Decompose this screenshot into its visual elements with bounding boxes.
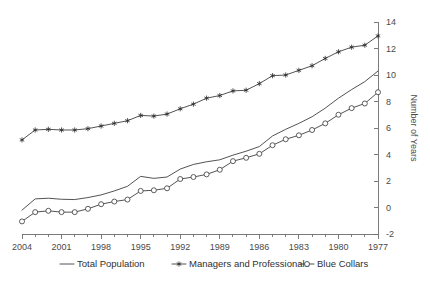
open-circle-marker <box>151 188 156 193</box>
x-tick-label: 2004 <box>12 242 32 252</box>
legend-label: Blue Collars <box>317 258 368 269</box>
open-circle-marker <box>46 208 51 213</box>
y-tick-label: 14 <box>386 17 396 27</box>
y-tick-label: 4 <box>386 150 391 160</box>
open-circle-marker <box>283 137 288 142</box>
star-marker <box>20 137 25 142</box>
x-tick-label: 1995 <box>131 242 151 252</box>
open-circle-marker <box>349 106 354 111</box>
y-axis-ticks <box>374 22 378 234</box>
series-1 <box>20 33 381 142</box>
star-marker <box>310 63 315 68</box>
open-circle-marker <box>270 143 275 148</box>
star-marker <box>191 102 196 107</box>
y-tick-label: 10 <box>386 70 396 80</box>
x-tick-label: 1983 <box>289 242 309 252</box>
open-circle-marker <box>72 210 77 215</box>
y-axis: -202468101214 Number of Years <box>374 17 419 239</box>
legend-item-0[interactable]: Total Population <box>60 258 145 269</box>
open-circle-marker <box>336 112 341 117</box>
open-circle-marker <box>296 133 301 138</box>
open-circle-marker <box>165 186 170 191</box>
x-tick-label: 1977 <box>368 242 388 252</box>
y-tick-label: 2 <box>386 176 391 186</box>
open-circle-marker <box>191 175 196 180</box>
series-layer <box>20 33 381 224</box>
open-circle-marker <box>257 151 262 156</box>
star-marker <box>323 56 328 61</box>
legend-open-circle-icon <box>305 262 310 267</box>
open-circle-marker <box>33 210 38 215</box>
series-line <box>22 71 378 210</box>
series-line <box>22 92 378 221</box>
open-circle-marker <box>112 199 117 204</box>
open-circle-marker <box>244 155 249 160</box>
open-circle-marker <box>85 206 90 211</box>
open-circle-marker <box>125 197 130 202</box>
x-tick-label: 1980 <box>328 242 348 252</box>
legend-label: Total Population <box>77 258 145 269</box>
y-axis-tick-labels: -202468101214 <box>386 17 396 239</box>
open-circle-marker <box>99 202 104 207</box>
open-circle-marker <box>59 210 64 215</box>
y-tick-label: 8 <box>386 97 391 107</box>
y-tick-label: -2 <box>386 229 394 239</box>
open-circle-marker <box>323 121 328 126</box>
open-circle-marker <box>138 188 143 193</box>
series-2 <box>20 90 381 224</box>
open-circle-marker <box>178 177 183 182</box>
open-circle-marker <box>204 172 209 177</box>
star-marker <box>336 49 341 54</box>
series-0 <box>22 71 378 210</box>
chart-legend: Total PopulationManagers and Professiona… <box>60 258 368 269</box>
open-circle-marker <box>310 127 315 132</box>
x-axis-ticks <box>22 234 378 239</box>
star-marker <box>257 81 262 86</box>
legend-item-1[interactable]: Managers and Professionals <box>172 258 310 269</box>
y-axis-title: Number of Years <box>409 94 419 162</box>
x-tick-label: 2001 <box>52 242 72 252</box>
line-chart: 2004200119981995199219891986198319801977… <box>0 0 430 290</box>
star-marker <box>376 33 381 38</box>
x-tick-label: 1986 <box>249 242 269 252</box>
open-circle-marker <box>230 159 235 164</box>
open-circle-marker <box>217 167 222 172</box>
x-axis: 2004200119981995199219891986198319801977 <box>12 234 388 252</box>
legend-label: Managers and Professionals <box>189 258 310 269</box>
open-circle-marker <box>376 90 381 95</box>
x-tick-label: 1992 <box>170 242 190 252</box>
chart-figure: 2004200119981995199219891986198319801977… <box>0 0 430 290</box>
x-tick-label: 1998 <box>91 242 111 252</box>
star-marker <box>178 106 183 111</box>
open-circle-marker <box>362 101 367 106</box>
open-circle-marker <box>20 219 25 224</box>
y-tick-label: 12 <box>386 44 396 54</box>
star-marker <box>297 68 302 73</box>
x-axis-tick-labels: 2004200119981995199219891986198319801977 <box>12 242 388 252</box>
x-tick-label: 1989 <box>210 242 230 252</box>
y-tick-label: 0 <box>386 203 391 213</box>
legend-item-2[interactable]: Blue Collars <box>300 258 368 269</box>
y-tick-label: 6 <box>386 123 391 133</box>
